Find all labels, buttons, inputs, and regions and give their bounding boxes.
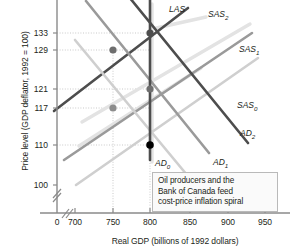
curve-label-ad1: AD1 xyxy=(213,157,228,169)
equilibrium-dot-2 xyxy=(146,85,153,92)
curve-label-sas2-text: SAS xyxy=(208,9,225,19)
curve-label-ad2: AD2 xyxy=(240,128,255,140)
y-tick-label-110: 110 xyxy=(22,140,48,150)
x-tick-label-850: 850 xyxy=(175,217,205,227)
curve-label-sas1-sub: 1 xyxy=(256,49,259,56)
x-tick-label-700: 700 xyxy=(60,217,90,227)
curve-label-las-text: LAS xyxy=(169,4,185,14)
x-tick-label-950: 950 xyxy=(250,217,280,227)
equilibrium-dot-3 xyxy=(109,46,116,53)
y-axis-label: Price level (GDP deflator, 1992 = 100) xyxy=(20,16,30,186)
y-tick-label-129: 129 xyxy=(22,45,48,55)
x-tick-label-900: 900 xyxy=(213,217,243,227)
initial-equilibrium-dot xyxy=(146,141,154,149)
curve-label-ad0-text: AD xyxy=(155,158,167,168)
x-tick-label-750: 750 xyxy=(98,217,128,227)
curve-label-ad2-text: AD xyxy=(240,128,252,138)
curve-label-sas2: SAS2 xyxy=(208,9,228,21)
curve-label-sas0-sub: 0 xyxy=(254,105,257,112)
equilibrium-dot-4 xyxy=(146,29,153,36)
cost-price-spiral-note: Oil producers and the Bank of Canada fee… xyxy=(152,172,278,212)
y-tick-label-117: 117 xyxy=(22,103,48,113)
y-tick-label-133: 133 xyxy=(22,28,48,38)
curve-label-sas0-text: SAS xyxy=(237,100,254,110)
curve-label-ad1-sub: 1 xyxy=(225,162,228,169)
note-line-1: Oil producers and the xyxy=(158,176,273,187)
curve-label-sas2-sub: 2 xyxy=(225,14,228,21)
curve-label-sas0: SAS0 xyxy=(237,100,257,112)
curve-label-ad2-sub: 2 xyxy=(252,133,255,140)
note-line-3: cost-price inflation spiral xyxy=(158,197,273,208)
curve-label-ad1-text: AD xyxy=(213,157,225,167)
curve-label-ad0-sub: 0 xyxy=(167,163,170,170)
curve-label-las: LAS xyxy=(169,4,185,14)
note-line-2: Bank of Canada feed xyxy=(158,187,273,198)
gridlines xyxy=(57,33,150,213)
as-ad-chart-figure: Price level (GDP deflator, 1992 = 100) R… xyxy=(0,0,290,252)
curve-label-ad0: AD0 xyxy=(155,158,170,170)
curve-label-sas1-text: SAS xyxy=(239,44,256,54)
x-tick-label-800: 800 xyxy=(135,217,165,227)
curve-label-sas1: SAS1 xyxy=(239,44,259,56)
y-tick-label-100: 100 xyxy=(22,180,48,190)
equilibrium-dot-1 xyxy=(109,104,116,111)
x-axis-label: Real GDP (billions of 1992 dollars) xyxy=(60,236,290,246)
y-tick-label-121: 121 xyxy=(22,84,48,94)
